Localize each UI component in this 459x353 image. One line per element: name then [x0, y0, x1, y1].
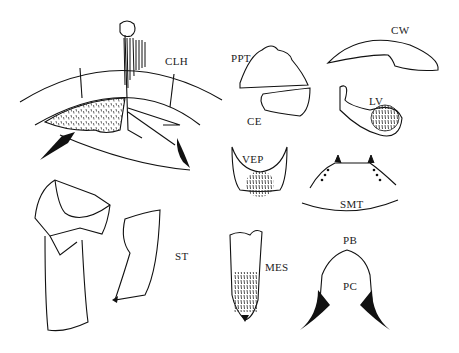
label-st: ST: [175, 250, 188, 262]
st-tip-mark: [112, 296, 118, 303]
label-pc: PC: [343, 280, 357, 292]
pc-right-spine: [360, 290, 390, 330]
label-smt: SMT: [340, 198, 364, 210]
label-vep: VEP: [242, 153, 264, 165]
label-lv: LV: [369, 95, 383, 107]
clh-setae: [124, 38, 145, 88]
label-cw: CW: [391, 24, 409, 36]
label-pb: PB: [343, 234, 357, 246]
clh-right-spine: [177, 138, 190, 168]
label-ce: CE: [247, 115, 262, 127]
clh-left-spine: [40, 132, 75, 160]
label-mes: MES: [265, 261, 289, 273]
morphology-drawing: [0, 0, 459, 353]
pc-left-spine: [300, 290, 330, 330]
clh-structure: [20, 21, 222, 170]
st-structure: [35, 180, 160, 331]
cw-structure: [328, 40, 438, 70]
label-ppt: PPT: [231, 52, 251, 64]
label-clh: CLH: [165, 55, 188, 67]
lv-structure: [340, 86, 402, 136]
mes-structure: [230, 231, 262, 322]
figure-canvas: CLH PPT CE CW LV VEP SMT ST MES PB PC: [0, 0, 459, 353]
